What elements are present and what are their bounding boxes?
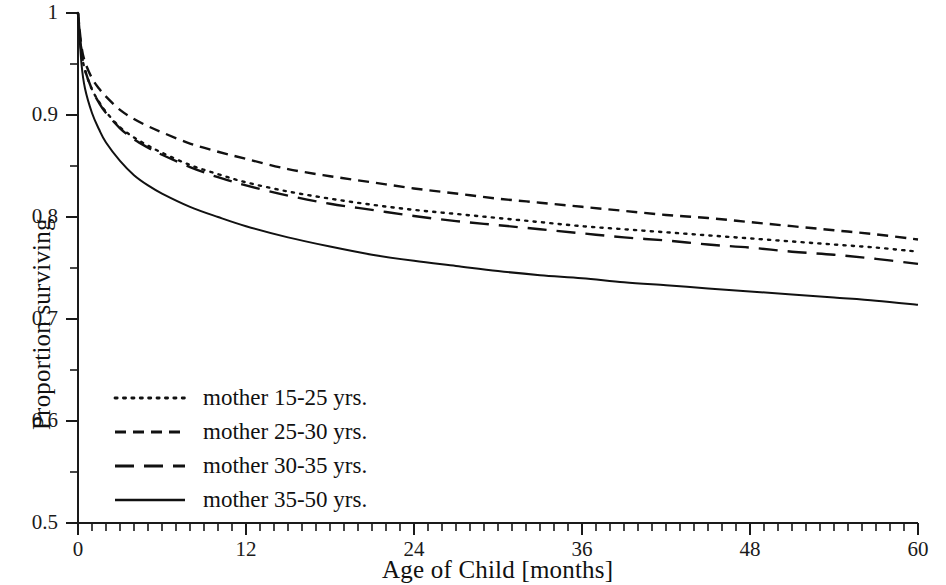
y-tick-label: 0.5 — [0, 512, 58, 533]
legend-label-1: mother 15-25 yrs. — [203, 386, 367, 409]
x-tick-label: 12 — [206, 539, 286, 560]
legend-label-4: mother 35-50 yrs. — [203, 488, 367, 511]
y-tick-label: 1 — [0, 2, 58, 23]
x-tick-label: 0 — [38, 539, 118, 560]
axis-lines — [78, 13, 918, 523]
y-axis-title: Proportion surviving — [28, 218, 56, 430]
x-tick-label: 48 — [710, 539, 790, 560]
x-tick-label: 60 — [878, 539, 946, 560]
series-line-2 — [78, 13, 918, 239]
plot-canvas — [0, 0, 946, 585]
legend-sample-lines — [115, 398, 185, 500]
legend-label-3: mother 30-35 yrs. — [203, 454, 367, 477]
x-axis-title: Age of Child [months] — [382, 556, 613, 584]
survival-curve-figure: 0.50.60.70.80.91 01224364860 Proportion … — [0, 0, 946, 585]
y-axis-ticks — [66, 13, 78, 523]
y-tick-label: 0.9 — [0, 104, 58, 125]
legend-label-2: mother 25-30 yrs. — [203, 420, 367, 443]
series-line-4 — [78, 13, 918, 305]
x-axis-ticks — [78, 523, 918, 535]
data-series-group — [78, 13, 918, 305]
series-line-1 — [78, 13, 918, 252]
